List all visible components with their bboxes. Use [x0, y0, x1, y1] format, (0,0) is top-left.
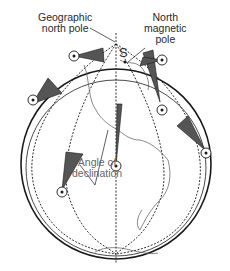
north-magnetic-pole-label: North magnetic pole — [144, 12, 187, 45]
geographic-north-pole-label: Geographic north pole — [38, 12, 92, 34]
s-pole-marker: S — [119, 47, 128, 58]
label-line: north pole — [38, 23, 92, 34]
label-line: pole — [144, 34, 187, 45]
globe-diagram — [0, 0, 230, 271]
angle-of-declination-label: Angle of declination — [72, 157, 122, 179]
label-line: declination — [72, 168, 122, 179]
magnetic-pole-dot — [124, 61, 127, 64]
